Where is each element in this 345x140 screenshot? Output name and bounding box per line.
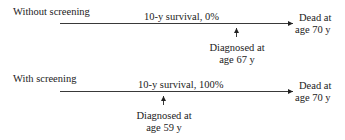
diagnosed-line1-with: Diagnosed at <box>133 110 195 122</box>
dead-line2-with: age 70 y <box>295 92 331 104</box>
survival-with-screening: 10-y survival, 100% <box>138 79 223 91</box>
label-without-screening: Without screening <box>13 6 90 18</box>
diagnosed-line1-without: Diagnosed at <box>206 42 268 54</box>
dead-line1-without: Dead at <box>299 12 331 24</box>
label-with-screening: With screening <box>13 73 76 85</box>
diagnosed-line2-with: age 59 y <box>133 122 195 134</box>
dead-line2-without: age 70 y <box>295 24 331 36</box>
survival-without-screening: 10-y survival, 0% <box>144 11 219 23</box>
dead-line1-with: Dead at <box>299 80 331 92</box>
diagnosed-line2-without: age 67 y <box>206 54 268 66</box>
